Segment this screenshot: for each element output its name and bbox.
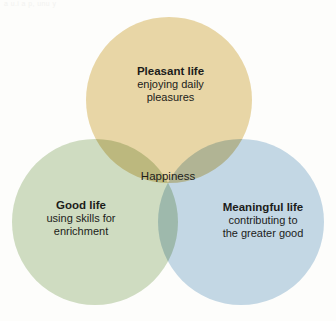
label-meaningful-life-line1: contributing to bbox=[196, 214, 330, 227]
venn-diagram-happiness: a u.i a p, unu y Pleasant life enjoying … bbox=[0, 0, 336, 321]
label-happiness-intersection: Happiness bbox=[118, 169, 218, 183]
label-pleasant-life-line1: enjoying daily bbox=[98, 78, 243, 91]
label-pleasant-life-heading: Pleasant life bbox=[98, 64, 243, 78]
label-good-life-line2: enrichment bbox=[16, 225, 146, 238]
label-pleasant-life: Pleasant life enjoying daily pleasures bbox=[98, 64, 243, 105]
label-meaningful-life-line2: the greater good bbox=[196, 227, 330, 240]
label-good-life-line1: using skills for bbox=[16, 212, 146, 225]
label-meaningful-life: Meaningful life contributing to the grea… bbox=[196, 200, 330, 241]
label-happiness-text: Happiness bbox=[118, 169, 218, 183]
label-good-life: Good life using skills for enrichment bbox=[16, 198, 146, 239]
label-meaningful-life-heading: Meaningful life bbox=[196, 200, 330, 214]
label-good-life-heading: Good life bbox=[16, 198, 146, 212]
label-pleasant-life-line2: pleasures bbox=[98, 91, 243, 104]
venn-circle-layer bbox=[0, 0, 336, 321]
